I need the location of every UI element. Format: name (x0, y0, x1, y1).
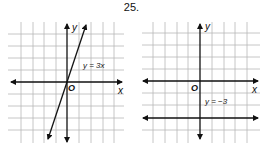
origin-label-2: O (191, 83, 198, 93)
origin-label-1: O (68, 83, 75, 93)
equation-label-2: y = −3 (204, 97, 228, 106)
x-axis-label-2: x (251, 84, 258, 95)
line-y-equals-3x (67, 25, 86, 82)
graph-y-equals-3x: y x O y = 3x (8, 22, 124, 143)
grid-2 (142, 22, 260, 143)
graph-y-equals-minus-3: y x O y = −3 (142, 21, 260, 143)
line-y-equals-3x-neg (48, 82, 67, 139)
y-axis-label-2: y (204, 21, 211, 32)
x-axis-label-1: x (117, 85, 124, 96)
graphs-canvas: y x O y = 3x y x O (0, 0, 263, 147)
y-axis-label-1: y (71, 22, 78, 33)
equation-label-1: y = 3x (82, 61, 106, 70)
